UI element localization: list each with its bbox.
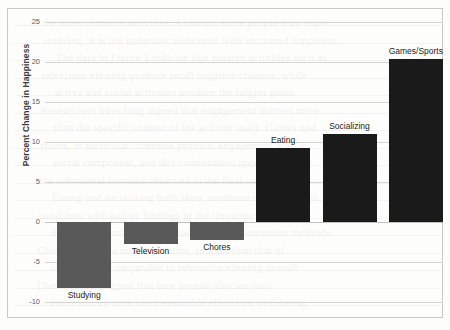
bar-eating	[256, 148, 310, 222]
gridline	[45, 22, 443, 23]
bar-label-eating: Eating	[236, 135, 330, 145]
plot-area: StudyingTelevisionChoresEatingSocializin…	[45, 22, 443, 302]
y-axis-label: Percent Change in Happiness	[21, 15, 31, 195]
gridline	[45, 182, 443, 183]
bar-television	[124, 222, 178, 244]
bar-label-socializing: Socializing	[303, 121, 397, 131]
bar-label-games-sports: Games/Sports	[369, 46, 450, 56]
bar-label-studying: Studying	[37, 290, 131, 300]
chart-figure: of the most common activities. Although …	[0, 0, 450, 330]
gridline	[45, 302, 443, 303]
gridline	[45, 62, 443, 63]
gridline	[45, 102, 443, 103]
bar-label-chores: Chores	[170, 242, 264, 252]
bar-socializing	[323, 134, 377, 222]
bar-chores	[190, 222, 244, 240]
bar-games-sports	[389, 59, 443, 222]
